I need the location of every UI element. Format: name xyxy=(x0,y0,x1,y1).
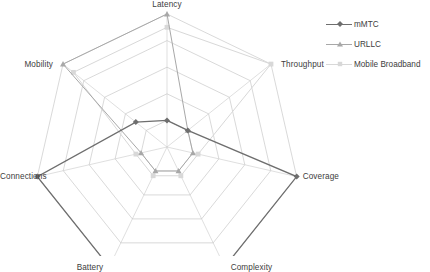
data-point-marker xyxy=(196,152,201,157)
axis-label-latency: Latency xyxy=(152,0,181,9)
axis-spoke xyxy=(167,64,271,147)
axis-label-coverage: Coverage xyxy=(303,172,339,181)
data-point-marker xyxy=(133,152,138,157)
square-marker-icon xyxy=(337,61,343,67)
axis-label-throughput: Throughput xyxy=(281,60,324,69)
legend-swatch-mobile-broadband xyxy=(326,59,352,69)
legend-item-mobile-broadband[interactable]: Mobile Broadband xyxy=(326,54,430,74)
axis-label-mobility: Mobility xyxy=(0,60,53,69)
data-point-marker xyxy=(151,173,156,178)
triangle-marker-icon xyxy=(337,41,343,47)
diamond-marker-icon xyxy=(337,21,343,27)
data-point-marker xyxy=(164,11,170,16)
axis-label-battery: Battery xyxy=(0,263,103,272)
axis-spoke xyxy=(63,64,167,147)
axis-spokes xyxy=(37,14,296,256)
legend-item-urllc[interactable]: URLLC xyxy=(326,34,430,54)
series-polygon xyxy=(63,14,193,171)
legend-label-mobile-broadband: Mobile Broadband xyxy=(352,60,420,69)
data-point-marker xyxy=(164,117,170,123)
legend-item-mmtc[interactable]: mMTC xyxy=(326,14,430,34)
data-point-marker xyxy=(269,62,274,67)
legend-swatch-urllc xyxy=(326,39,352,49)
axis-label-connections: Connections xyxy=(0,172,31,181)
data-point-marker xyxy=(178,173,183,178)
chart-legend: mMTC URLLC Mobile Broadband xyxy=(326,14,430,74)
legend-label-urllc: URLLC xyxy=(352,40,381,49)
axis-label-complexity: Complexity xyxy=(231,263,273,272)
legend-label-mmtc: mMTC xyxy=(352,20,379,29)
data-point-marker xyxy=(60,61,66,66)
legend-swatch-mmtc xyxy=(326,19,352,29)
data-point-marker xyxy=(133,119,139,125)
